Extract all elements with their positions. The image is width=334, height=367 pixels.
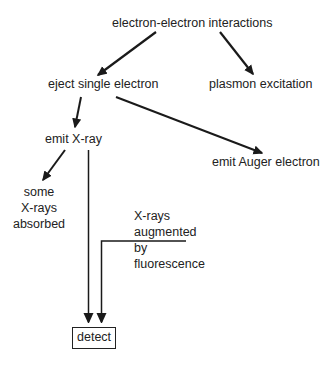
node-label: emit Auger electron (212, 155, 320, 169)
node-plasmon-excitation: plasmon excitation (209, 76, 313, 92)
node-label: eject single electron (48, 77, 158, 91)
edge-eject-to-xray (75, 97, 81, 127)
node-detect: detect (72, 327, 116, 349)
node-label-line: X-rays (134, 208, 224, 224)
node-eject-single-electron: eject single electron (48, 76, 158, 92)
node-label-line: fluorescence (134, 256, 224, 272)
node-label-line: absorbed (10, 216, 68, 232)
edge-eject-to-auger (116, 97, 262, 153)
node-label-line: X-rays (10, 200, 68, 216)
edge-xray-to-absorbed (43, 150, 65, 180)
node-label: detect (77, 330, 111, 344)
edge-root-to-eject (98, 32, 156, 75)
flowchart-diagram: electron-electron interactions eject sin… (0, 0, 334, 367)
node-some-x-rays-absorbed: some X-rays absorbed (10, 184, 68, 232)
node-label-line: some (10, 184, 68, 200)
node-x-rays-augmented-by-fluorescence: X-rays augmented by fluorescence (134, 208, 224, 272)
node-label: emit X-ray (45, 132, 102, 146)
node-label: plasmon excitation (209, 77, 313, 91)
node-electron-electron-interactions: electron-electron interactions (112, 15, 273, 31)
edge-root-to-plasmon (220, 32, 253, 74)
node-label-line: augmented (134, 224, 224, 240)
node-label: electron-electron interactions (112, 16, 273, 30)
node-emit-x-ray: emit X-ray (45, 131, 102, 147)
node-label-line: by (134, 240, 224, 256)
node-emit-auger-electron: emit Auger electron (212, 154, 320, 170)
